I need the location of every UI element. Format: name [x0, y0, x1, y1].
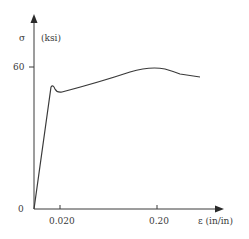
stress-strain-chart: σ (ksi) 60 0 0.020 0.20 ε (in/in) — [0, 0, 249, 239]
stress-strain-curve — [34, 68, 200, 209]
y-axis-unit: (ksi) — [41, 33, 61, 43]
x-tick-label-020: 0.20 — [149, 216, 169, 226]
y-axis-symbol: σ — [19, 33, 25, 43]
y-axis-arrow-icon — [31, 14, 38, 23]
y-tick-label-60: 60 — [13, 62, 25, 72]
x-axis-label: ε (in/in) — [198, 216, 233, 226]
x-tick-label-0020: 0.020 — [49, 216, 75, 226]
origin-label: 0 — [18, 204, 24, 214]
x-axis-arrow-icon — [215, 206, 224, 213]
